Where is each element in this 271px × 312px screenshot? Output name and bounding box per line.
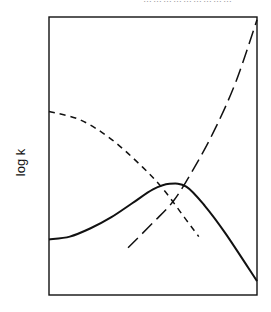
plot-frame (49, 17, 257, 295)
chart-canvas (0, 0, 271, 312)
solid-curve (49, 183, 257, 281)
long-dash-curve (128, 20, 257, 248)
y-axis-label-text: log k (14, 148, 29, 175)
short-dash-curve (49, 112, 199, 237)
y-axis-label: log k (6, 142, 36, 182)
